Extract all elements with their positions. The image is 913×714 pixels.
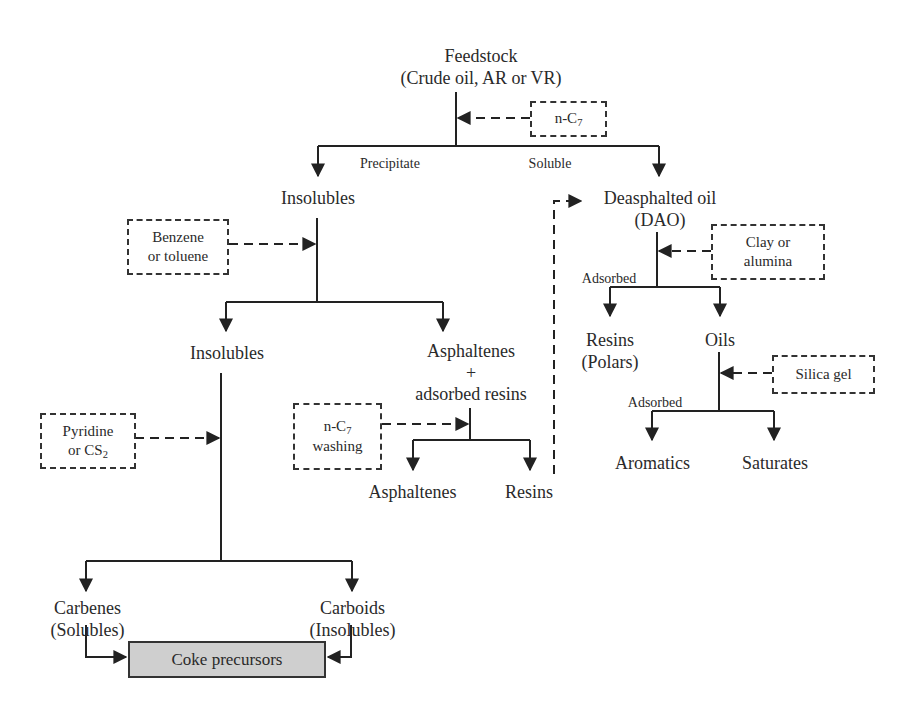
silica-gel-label: Silica gel [795, 365, 851, 384]
benzene-label: Benzene [148, 228, 208, 247]
resins-polars-label: Resins [570, 330, 650, 352]
asphaltenes-resins-label: Asphaltenes [396, 341, 546, 363]
solvent-box-silica-gel: Silica gel [772, 355, 875, 394]
node-coke-precursors: Coke precursors [128, 641, 326, 678]
carbenes-sublabel: (Solubles) [40, 620, 135, 642]
node-carboids: Carboids (Insolubles) [300, 598, 405, 642]
node-aromatics: Aromatics [600, 453, 705, 475]
carboids-label: Carboids [300, 598, 405, 620]
solvent-box-benzene-toluene: Benzene or toluene [127, 219, 229, 275]
feedstock-sublabel: (Crude oil, AR or VR) [386, 68, 576, 90]
n-c7-prefix: n-C [555, 110, 578, 126]
edge-label-precipitate: Precipitate [350, 155, 430, 172]
clay-label: Clay or [744, 233, 792, 252]
node-insolubles-2: Insolubles [172, 343, 282, 365]
pyridine-label: Pyridine [63, 422, 114, 441]
node-feedstock: Feedstock (Crude oil, AR or VR) [386, 46, 576, 90]
node-saturates: Saturates [730, 453, 820, 475]
carbenes-label: Carbenes [40, 598, 135, 620]
solvent-box-pyridine-cs2: Pyridine or CS2 [40, 413, 136, 469]
node-asphaltenes: Asphaltenes [355, 482, 470, 504]
edge-label-soluble: Soluble [510, 155, 590, 172]
carboids-sublabel: (Insolubles) [300, 620, 405, 642]
dao-label: Deasphalted oil [585, 188, 735, 210]
resins-polars-sublabel: (Polars) [570, 352, 650, 374]
node-resins: Resins [494, 482, 564, 504]
node-asphaltenes-adsorbed-resins: Asphaltenes + adsorbed resins [396, 341, 546, 406]
toluene-label: or toluene [148, 247, 208, 266]
cs2-subscript: 2 [103, 448, 108, 459]
solvent-box-clay-alumina: Clay or alumina [711, 224, 825, 280]
edge-label-adsorbed-dao: Adsorbed [574, 270, 644, 287]
solvent-box-n-c7: n-C7 [530, 101, 607, 137]
adsorbed-resins-label: adsorbed resins [396, 384, 546, 406]
node-carbenes: Carbenes (Solubles) [40, 598, 135, 642]
washing-label: washing [313, 437, 363, 456]
node-oils: Oils [695, 330, 745, 352]
node-insolubles-1: Insolubles [263, 188, 373, 210]
edge-label-adsorbed-oils: Adsorbed [620, 394, 690, 411]
n-c7-subscript: 7 [577, 117, 582, 128]
solvent-box-n-c7-washing: n-C7 washing [293, 403, 382, 470]
node-resins-polars: Resins (Polars) [570, 330, 650, 374]
alumina-label: alumina [744, 252, 792, 271]
n-c7-washing-subscript: 7 [346, 425, 351, 436]
n-c7-washing-prefix: n-C [324, 418, 347, 434]
feedstock-label: Feedstock [386, 46, 576, 68]
coke-precursors-label: Coke precursors [172, 650, 283, 670]
plus-sign: + [396, 363, 546, 385]
cs2-prefix: or CS [68, 442, 103, 458]
